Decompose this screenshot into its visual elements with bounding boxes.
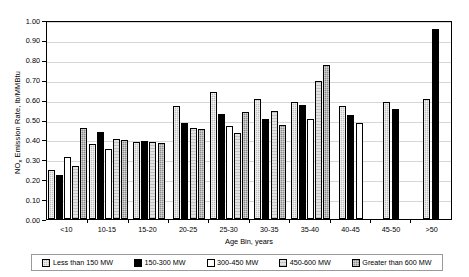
legend-item-2[interactable]: 300-450 MW xyxy=(207,258,259,267)
bar xyxy=(48,170,55,219)
legend-swatch-icon xyxy=(279,259,287,267)
bar xyxy=(242,112,249,219)
chart-container: NOx Emission Rate, lb/MMBtu 0.000.100.20… xyxy=(0,0,469,277)
bar xyxy=(97,132,104,219)
bar xyxy=(198,129,205,219)
legend-item-0[interactable]: Less than 150 MW xyxy=(42,258,112,267)
bar-group xyxy=(371,22,411,219)
x-axis-tick-label-5: 30-35 xyxy=(249,225,290,234)
bar xyxy=(392,109,399,219)
bar xyxy=(89,144,96,219)
bar-group xyxy=(250,22,290,219)
legend-swatch-icon xyxy=(42,259,50,267)
legend-item-3[interactable]: 450-600 MW xyxy=(279,258,331,267)
bar xyxy=(432,29,439,219)
x-axis-tick-label-9: >50 xyxy=(411,225,452,234)
bar xyxy=(234,133,241,219)
bar xyxy=(299,105,306,219)
legend-label: Greater than 600 MW xyxy=(362,258,431,267)
bar xyxy=(149,142,156,219)
bar-group xyxy=(47,22,88,219)
bar xyxy=(262,119,269,219)
bar xyxy=(315,81,322,219)
y-axis-tick-label: 0.40 xyxy=(6,136,40,145)
bar xyxy=(121,140,128,219)
legend-item-1[interactable]: 150-300 MW xyxy=(134,258,186,267)
bar xyxy=(226,126,233,219)
x-axis-tick-label-8: 45-50 xyxy=(371,225,412,234)
bar xyxy=(383,102,390,219)
bar xyxy=(323,65,330,219)
bar xyxy=(210,92,217,219)
bar xyxy=(105,149,112,219)
bar xyxy=(423,99,430,219)
bar-group xyxy=(411,22,451,219)
bar-group xyxy=(88,22,129,219)
plot-area xyxy=(46,21,452,220)
bar xyxy=(271,111,278,219)
y-axis-tick-label: 0.60 xyxy=(6,96,40,105)
bar xyxy=(80,128,87,219)
bar xyxy=(133,142,140,219)
y-axis-tick-label: 0.90 xyxy=(6,36,40,45)
bar xyxy=(307,119,314,219)
bar-group xyxy=(290,22,331,219)
x-axis-tick-label-3: 20-25 xyxy=(168,225,209,234)
bar xyxy=(56,175,63,219)
legend-label: 150-300 MW xyxy=(144,258,185,267)
x-axis-tick-labels: <1010-1515-2020-2525-3030-3535-4040-4545… xyxy=(46,225,452,234)
x-axis-tick-label-0: <10 xyxy=(46,225,87,234)
legend-swatch-icon xyxy=(352,259,360,267)
x-axis-tick-label-2: 15-20 xyxy=(127,225,168,234)
bar xyxy=(181,123,188,220)
x-axis-tick-label-7: 40-45 xyxy=(330,225,371,234)
y-axis-tick-label: 0.20 xyxy=(6,176,40,185)
bar xyxy=(158,143,165,219)
bar-group xyxy=(169,22,209,219)
bar xyxy=(190,128,197,219)
y-axis-tick-label: 0.30 xyxy=(6,156,40,165)
y-axis-tick xyxy=(42,220,46,221)
legend-item-4[interactable]: Greater than 600 MW xyxy=(352,258,432,267)
y-axis-tick-label: 0.80 xyxy=(6,56,40,65)
bar-groups xyxy=(47,22,451,219)
bar xyxy=(339,106,346,219)
bar xyxy=(218,114,225,219)
bar-group xyxy=(331,22,371,219)
legend-label: 300-450 MW xyxy=(217,258,258,267)
bar xyxy=(141,141,148,219)
legend-label: 450-600 MW xyxy=(290,258,331,267)
legend-label: Less than 150 MW xyxy=(53,258,113,267)
x-axis-tick-label-4: 25-30 xyxy=(208,225,249,234)
y-axis-tick-label: 0.50 xyxy=(6,116,40,125)
bar-group xyxy=(129,22,169,219)
y-axis-tick-label: 1.00 xyxy=(6,17,40,26)
legend-swatch-icon xyxy=(134,259,142,267)
chart-legend: Less than 150 MW150-300 MW300-450 MW450-… xyxy=(31,254,443,271)
legend-swatch-icon xyxy=(207,259,215,267)
bar xyxy=(113,139,120,219)
y-axis-tick-label: 0.10 xyxy=(6,196,40,205)
y-axis-tick-label: 0.00 xyxy=(6,216,40,225)
bar xyxy=(254,99,261,219)
bar xyxy=(291,102,298,219)
bar xyxy=(72,166,79,219)
x-axis-title: Age Bin, years xyxy=(46,237,452,246)
bar-group xyxy=(209,22,250,219)
y-axis-tick-label: 0.70 xyxy=(6,76,40,85)
bar xyxy=(347,115,354,219)
x-axis-tick-label-1: 10-15 xyxy=(87,225,128,234)
bar xyxy=(64,157,71,219)
bar xyxy=(173,106,180,219)
x-axis-tick-label-6: 35-40 xyxy=(290,225,331,234)
bar xyxy=(356,123,363,219)
bar xyxy=(279,125,286,219)
